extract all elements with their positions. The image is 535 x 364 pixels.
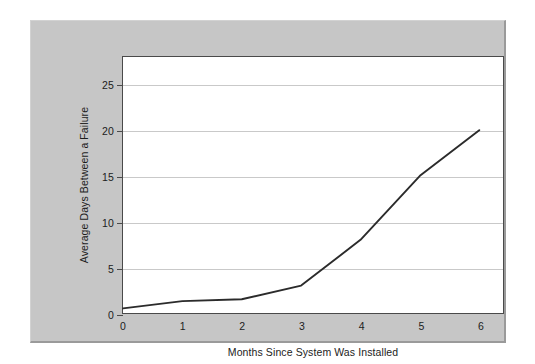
chart-figure: Average Days Between a Failure 051015202… bbox=[0, 0, 535, 364]
x-tick-label-6: 6 bbox=[478, 320, 484, 332]
x-tick-label-5: 5 bbox=[418, 320, 424, 332]
series-line-failure-rate bbox=[123, 130, 479, 308]
y-tick-label-10: 10 bbox=[102, 217, 114, 229]
plot-area: 0510152025 0123456 bbox=[122, 56, 504, 314]
y-tick-label-5: 5 bbox=[108, 263, 114, 275]
x-tick-label-4: 4 bbox=[359, 320, 365, 332]
x-tick-label-2: 2 bbox=[239, 320, 245, 332]
plot-inner: 0510152025 0123456 bbox=[123, 57, 503, 313]
x-axis-title: Months Since System Was Installed bbox=[122, 346, 504, 358]
chart-panel: Average Days Between a Failure 051015202… bbox=[30, 20, 506, 343]
y-tick-label-0: 0 bbox=[108, 309, 114, 321]
x-tick-label-3: 3 bbox=[299, 320, 305, 332]
y-axis-title-label: Average Days Between a Failure bbox=[78, 107, 90, 263]
y-tick-mark-0 bbox=[117, 315, 123, 316]
series-line-chart bbox=[123, 57, 503, 313]
x-tick-label-0: 0 bbox=[120, 320, 126, 332]
y-axis-title: Average Days Between a Failure bbox=[76, 56, 92, 314]
y-tick-label-15: 15 bbox=[102, 171, 114, 183]
y-tick-label-25: 25 bbox=[102, 79, 114, 91]
x-tick-label-1: 1 bbox=[180, 320, 186, 332]
y-tick-label-20: 20 bbox=[102, 125, 114, 137]
